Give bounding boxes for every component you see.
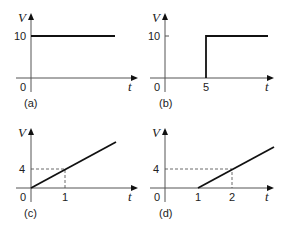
- x-axis-arrow-icon: [131, 185, 138, 191]
- origin-label: 0: [20, 191, 26, 203]
- x-tick-label-2: 2: [229, 191, 235, 203]
- step-signal-line: [206, 36, 268, 78]
- x-axis-label: t: [265, 189, 269, 204]
- y-axis-arrow-icon: [28, 13, 34, 20]
- y-axis-label: V: [18, 10, 28, 25]
- guide-dashed-lines: [165, 169, 232, 188]
- panel-c: V 4 0 1 t (c): [16, 125, 138, 219]
- x-tick-label: 5: [203, 81, 209, 93]
- origin-label: 0: [154, 191, 160, 203]
- origin-label: 0: [20, 81, 26, 93]
- y-tick-label: 10: [14, 30, 26, 42]
- y-axis-label: V: [18, 125, 28, 140]
- y-axis-label: V: [152, 125, 162, 140]
- x-axis-arrow-icon: [131, 75, 138, 81]
- panel-d: V 4 0 1 2 t (d): [150, 125, 274, 219]
- y-tick-label: 4: [19, 163, 25, 175]
- x-tick-label-1: 1: [195, 191, 201, 203]
- x-axis-label: t: [265, 79, 269, 94]
- panel-a: V 10 0 t (a): [14, 10, 138, 109]
- origin-label: 0: [154, 81, 160, 93]
- panel-caption: (b): [159, 97, 172, 109]
- x-axis-label: t: [128, 79, 132, 94]
- y-axis-arrow-icon: [162, 128, 168, 135]
- panel-caption: (a): [24, 97, 37, 109]
- x-axis-label: t: [128, 189, 132, 204]
- y-tick-label: 10: [148, 30, 160, 42]
- y-axis-arrow-icon: [162, 13, 168, 20]
- ramp-signal-line: [198, 147, 274, 188]
- y-axis-label: V: [152, 10, 162, 25]
- figure-canvas: V 10 0 t (a) V 10 0 5 t (b) V 4 0 1 t (c…: [0, 0, 289, 229]
- panel-caption: (d): [159, 207, 172, 219]
- y-axis-arrow-icon: [28, 128, 34, 135]
- x-tick-label: 1: [62, 191, 68, 203]
- panel-b: V 10 0 5 t (b): [148, 10, 274, 109]
- panel-caption: (c): [24, 207, 37, 219]
- ramp-signal-line: [31, 142, 116, 188]
- y-tick-label: 4: [153, 163, 159, 175]
